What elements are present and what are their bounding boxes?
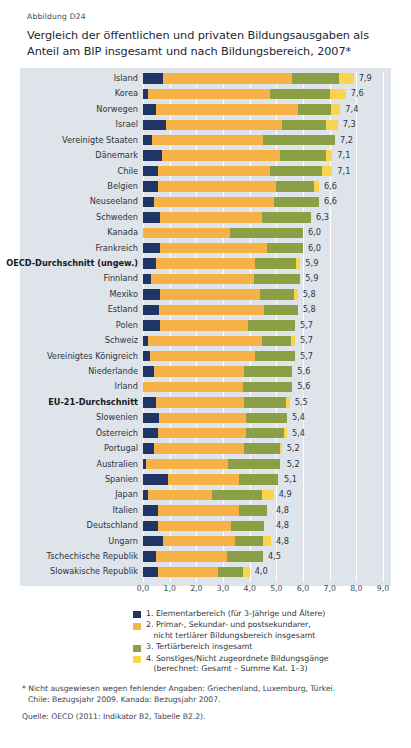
stacked-bar bbox=[143, 428, 287, 438]
bar-segment-elementary bbox=[143, 351, 150, 361]
stacked-bar bbox=[143, 120, 338, 130]
bar-value-label: 5,6 bbox=[297, 366, 310, 377]
category-label: Niederlande bbox=[88, 366, 138, 377]
bar-segment-elementary bbox=[143, 73, 163, 83]
category-label: Spanien bbox=[105, 474, 138, 485]
stacked-bar bbox=[143, 551, 263, 561]
bar-segment-tertiary bbox=[227, 551, 263, 561]
bar-segment-other bbox=[339, 73, 354, 83]
chart-row: OECD-Durchschnitt (ungew.)5,9 bbox=[143, 257, 383, 270]
category-label: Irland bbox=[115, 381, 138, 392]
bar-segment-elementary bbox=[143, 274, 151, 284]
stacked-bar bbox=[143, 89, 346, 99]
bar-segment-tertiary bbox=[264, 305, 297, 315]
bar-segment-primary-secondary bbox=[159, 305, 264, 315]
bar-segment-primary-secondary bbox=[168, 474, 239, 484]
legend-label: 3. Tertiärbereich insgesamt bbox=[146, 642, 391, 652]
category-label: Korea bbox=[115, 88, 138, 99]
category-label: Deutschland bbox=[87, 520, 138, 531]
bar-value-label: 5,2 bbox=[287, 443, 300, 454]
bar-segment-tertiary bbox=[267, 243, 303, 253]
bar-segment-tertiary bbox=[263, 135, 335, 145]
chart-row: Kanada6,0 bbox=[143, 226, 383, 239]
category-label: Island bbox=[114, 73, 138, 84]
chart-row: Österreich5,4 bbox=[143, 427, 383, 440]
bar-value-label: 4,9 bbox=[279, 489, 292, 500]
stacked-bar bbox=[143, 336, 295, 346]
bar-segment-elementary bbox=[143, 212, 160, 222]
legend-label-line-2: nicht tertiärer Bildungsbereich insgesam… bbox=[146, 631, 391, 641]
chart-row: Chile7,1 bbox=[143, 165, 383, 178]
legend-label: 4. Sonstiges/Nicht zugeordnete Bildungsg… bbox=[146, 654, 391, 675]
bar-segment-primary-secondary bbox=[154, 443, 245, 453]
bar-segment-elementary bbox=[143, 551, 156, 561]
stacked-bar bbox=[143, 135, 335, 145]
bar-segment-tertiary bbox=[239, 505, 267, 515]
category-label: Tschechische Republik bbox=[47, 551, 138, 562]
bar-value-label: 5,6 bbox=[297, 381, 310, 392]
x-tick-label: 9,0 bbox=[377, 584, 389, 593]
category-label: Slowenien bbox=[96, 412, 138, 423]
stacked-bar bbox=[143, 243, 303, 253]
bar-segment-tertiary bbox=[270, 166, 322, 176]
bar-value-label: 4,8 bbox=[276, 505, 289, 516]
bar-segment-tertiary bbox=[298, 104, 331, 114]
stacked-bar bbox=[143, 505, 267, 515]
category-label: Österreich bbox=[96, 428, 138, 439]
bar-value-label: 5,8 bbox=[303, 304, 316, 315]
bar-segment-primary-secondary bbox=[148, 490, 212, 500]
bar-segment-other bbox=[322, 166, 333, 176]
bar-segment-primary-secondary bbox=[154, 197, 274, 207]
bar-segment-elementary bbox=[143, 443, 154, 453]
bar-rows: Island7,9Korea7,6Norwegen7,4Israel7,3Ver… bbox=[143, 72, 383, 582]
legend-label-line-1: 1. Elementarbereich (für 3-Jährige und Ä… bbox=[146, 609, 325, 618]
bar-segment-other bbox=[286, 397, 290, 407]
bar-value-label: 5,4 bbox=[292, 412, 305, 423]
bar-segment-elementary bbox=[143, 197, 154, 207]
category-label: Portugal bbox=[104, 443, 138, 454]
bar-segment-elementary bbox=[143, 428, 158, 438]
bar-value-label: 7,1 bbox=[337, 150, 350, 161]
chart-row: Ungarn4,8 bbox=[143, 535, 383, 548]
bar-segment-primary-secondary bbox=[166, 120, 282, 130]
bar-segment-primary-secondary bbox=[163, 536, 235, 546]
category-label: Polen bbox=[116, 320, 138, 331]
category-label: Mexiko bbox=[109, 289, 138, 300]
x-tick-label: 6,0 bbox=[297, 584, 309, 593]
bar-value-label: 6,6 bbox=[324, 181, 337, 192]
legend-swatch-elementary bbox=[133, 611, 141, 618]
category-label: Neuseeland bbox=[90, 196, 138, 207]
chart-legend: 1. Elementarbereich (für 3-Jährige und Ä… bbox=[133, 609, 391, 675]
bar-value-label: 5,8 bbox=[303, 289, 316, 300]
bar-segment-tertiary bbox=[262, 212, 311, 222]
bar-segment-primary-secondary bbox=[160, 212, 261, 222]
chart-row: Slowakische Republik4,0 bbox=[143, 565, 383, 578]
bar-segment-primary-secondary bbox=[152, 135, 263, 145]
bar-value-label: 7,6 bbox=[351, 88, 364, 99]
chart-row: Schweiz5,7 bbox=[143, 334, 383, 347]
chart-row: Belgien6,6 bbox=[143, 180, 383, 193]
category-label: Norwegen bbox=[96, 104, 138, 115]
chart-row: Island7,9 bbox=[143, 72, 383, 85]
chart-row: Irland5,6 bbox=[143, 380, 383, 393]
bar-segment-elementary bbox=[143, 104, 156, 114]
stacked-bar bbox=[143, 181, 319, 191]
bar-segment-tertiary bbox=[212, 490, 261, 500]
legend-item: 1. Elementarbereich (für 3-Jährige und Ä… bbox=[133, 609, 391, 619]
category-label: EU-21-Durchschnitt bbox=[48, 397, 138, 408]
footnote-line-2: Chile: Bezugsjahr 2009. Kanada: Bezugsja… bbox=[22, 695, 397, 706]
bar-segment-tertiary bbox=[246, 428, 285, 438]
category-label: Australien bbox=[97, 459, 138, 470]
bar-segment-primary-secondary bbox=[162, 150, 281, 160]
bar-segment-primary-secondary bbox=[143, 382, 243, 392]
bar-segment-other bbox=[314, 181, 319, 191]
chart-row: Israel7,3 bbox=[143, 118, 383, 131]
legend-label-line-1: 3. Tertiärbereich insgesamt bbox=[146, 642, 252, 651]
bar-value-label: 4,8 bbox=[276, 536, 289, 547]
stacked-bar bbox=[143, 104, 340, 114]
stacked-bar bbox=[143, 274, 300, 284]
stacked-bar bbox=[143, 536, 271, 546]
gridline-9-0 bbox=[383, 72, 384, 582]
stacked-bar bbox=[143, 521, 264, 531]
x-tick-label: 4,0 bbox=[243, 584, 255, 593]
